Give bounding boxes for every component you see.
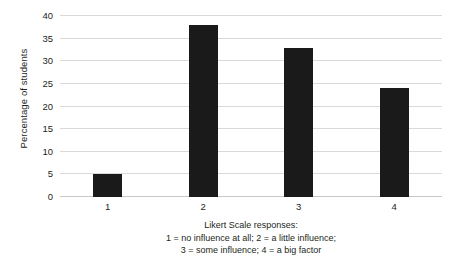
bar (93, 174, 122, 197)
y-axis-tick-label: 10 (42, 145, 53, 156)
bar-chart: Percentage of students 0510152025303540 … (0, 0, 459, 272)
x-axis-caption-line-1: Likert Scale responses: (60, 219, 442, 232)
x-axis-caption-line-3: 3 = some influence; 4 = a big factor (60, 244, 442, 257)
y-axis-tick-label: 5 (48, 168, 53, 179)
x-axis-caption: Likert Scale responses: 1 = no influence… (60, 219, 442, 257)
y-axis-tick-label: 40 (42, 10, 53, 21)
y-axis-tick-label: 30 (42, 55, 53, 66)
bar (284, 48, 313, 197)
x-axis-caption-line-2: 1 = no influence at all; 2 = a little in… (60, 232, 442, 245)
plot-area: 0510152025303540 (60, 16, 442, 197)
y-axis-tick-label: 20 (42, 100, 53, 111)
y-axis-tick-label: 25 (42, 77, 53, 88)
x-axis-tick-label: 4 (364, 201, 424, 212)
bars-group (60, 16, 442, 197)
x-axis-tick-label: 1 (78, 201, 138, 212)
y-axis-tick-label: 15 (42, 123, 53, 134)
y-axis-title: Percentage of students (16, 0, 32, 197)
bar (189, 25, 218, 197)
bar (380, 88, 409, 197)
x-axis-tick-label: 3 (269, 201, 329, 212)
y-axis-tick-label: 0 (48, 191, 53, 202)
y-axis-tick-label: 35 (42, 32, 53, 43)
x-axis-tick-label: 2 (173, 201, 233, 212)
